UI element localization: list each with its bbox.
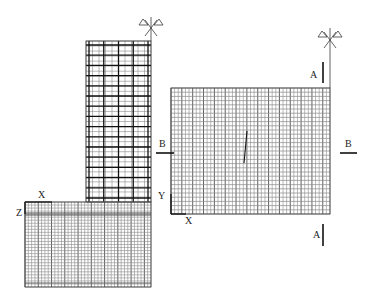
left-z-axis-label: Z: [16, 208, 22, 218]
section-b-right-label: B: [345, 139, 352, 149]
mesh-diagram: [0, 0, 368, 301]
base-mesh: [25, 202, 151, 287]
section-a-bottom-label: A: [313, 230, 320, 240]
column-mesh: [86, 41, 151, 202]
right-mesh: [171, 88, 330, 214]
section-a-top-label: A: [310, 70, 317, 80]
right-x-axis-label: X: [185, 216, 192, 226]
right-y-axis-label: Y: [158, 191, 165, 201]
left-x-axis-label: X: [38, 190, 45, 200]
section-b-left-label: B: [159, 139, 166, 149]
